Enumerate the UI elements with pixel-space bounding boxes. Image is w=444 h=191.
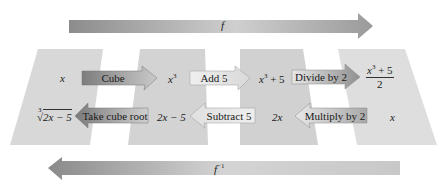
- column-2-top-value: x3: [168, 73, 176, 85]
- add5-step-label: Add 5: [192, 73, 236, 84]
- cube-step-label: Cube: [88, 73, 138, 84]
- inverse-function-label: f−1: [214, 163, 225, 175]
- column-2-top-exponent: 3: [173, 72, 177, 80]
- divide2-step-label: Divide by 2: [293, 72, 349, 83]
- column-1-top-value: x: [60, 73, 65, 84]
- panel-column-2: [128, 49, 208, 145]
- column-3-top-value: x3 + 5: [259, 73, 285, 85]
- subtract5-step-label: Subtract 5: [204, 111, 254, 122]
- forward-function-label: f: [221, 20, 224, 31]
- multiply2-step-label: Multiply by 2: [303, 111, 367, 122]
- column-3-top-rest: + 5: [267, 73, 284, 85]
- panel-column-3: [240, 49, 318, 145]
- panel-column-1: [10, 49, 103, 145]
- column-4-bottom-value: x: [390, 112, 395, 123]
- column-4-top-value: x3 + 5 2: [366, 64, 394, 90]
- column-2-bottom-value: 2x − 5: [157, 112, 186, 123]
- column-3-bottom-value: 2x: [272, 112, 282, 123]
- cube-root-index: 3: [38, 107, 42, 114]
- inverse-function-superscript: −1: [217, 162, 224, 170]
- fraction-numerator: x3 + 5: [366, 64, 394, 78]
- numerator-rest: + 5: [375, 64, 392, 76]
- fraction-denominator: 2: [366, 78, 394, 90]
- radicand: 2x − 5: [43, 109, 72, 123]
- cuberoot-step-label: Take cube root: [82, 111, 148, 122]
- column-1-bottom-value: 3√2x − 5: [37, 112, 72, 123]
